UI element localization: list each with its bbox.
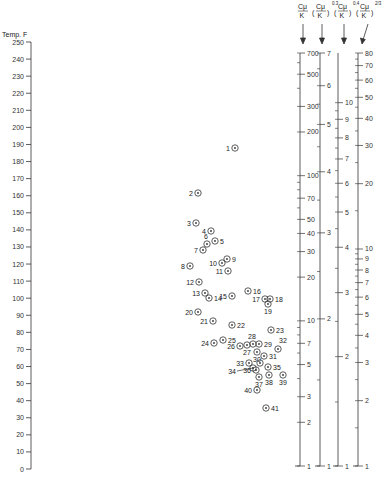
point-label: 2 — [189, 190, 193, 197]
svg-text:K: K — [340, 12, 345, 19]
temp-tick-label: 220 — [12, 90, 24, 97]
temp-tick-label: 130 — [12, 243, 24, 250]
header-cp-k-exp-2-3: ( Cμ K ) 2/3 — [356, 1, 382, 19]
point-label: 22 — [237, 322, 245, 329]
scale-4: 8070605040302010987654321 — [353, 50, 373, 470]
reference-point: 41 — [263, 405, 279, 412]
svg-text:(: ( — [312, 9, 315, 17]
reference-point: 36 — [243, 367, 259, 374]
point-label: 27 — [243, 349, 251, 356]
point-label: 8 — [181, 263, 185, 270]
reference-point: 32 — [275, 337, 287, 352]
scale-label: 30 — [365, 142, 373, 149]
reference-point: 9 — [224, 256, 236, 263]
scale-label: 10 — [365, 245, 373, 252]
svg-text:): ) — [371, 9, 373, 17]
reference-point: 6 — [204, 233, 210, 247]
reference-point: 19 — [264, 301, 272, 315]
point-label: 21 — [200, 318, 208, 325]
reference-point: 1 — [226, 145, 238, 152]
header-1-numerator: Cμ — [298, 3, 307, 11]
point-label: 12 — [186, 279, 194, 286]
temp-tick-label: 250 — [12, 39, 24, 46]
scale-label: 7 — [345, 155, 349, 162]
scale-label: 3 — [307, 393, 311, 400]
point-label: 15 — [219, 293, 227, 300]
scale-label: 9 — [345, 116, 349, 123]
point-label: 39 — [279, 379, 287, 386]
reference-point: 35 — [265, 364, 281, 371]
scale-label: 3 — [345, 289, 349, 296]
reference-point: 5 — [212, 238, 224, 245]
scale-label: 60 — [365, 77, 373, 84]
svg-text:): ) — [349, 9, 351, 17]
scale-label: 70 — [307, 195, 315, 202]
scale-label: 500 — [307, 71, 319, 78]
reference-point: 20 — [185, 309, 201, 316]
point-label: 26 — [227, 343, 235, 350]
reference-point: 3 — [187, 220, 199, 227]
temp-tick-label: 100 — [12, 295, 24, 302]
temp-tick-label: 210 — [12, 107, 24, 114]
point-label: 34 — [228, 368, 236, 375]
scale-label: 70 — [365, 62, 373, 69]
scale-label: 50 — [365, 94, 373, 101]
scale-label: 2 — [365, 397, 369, 404]
reference-point: 22 — [229, 322, 245, 329]
nomograph: Temp. F 01020304050607080901001101201301… — [0, 0, 392, 485]
scale-label: 2 — [307, 419, 311, 426]
point-label: 17 — [252, 296, 260, 303]
scale-label: 200 — [307, 128, 319, 135]
reference-point: 24 — [201, 340, 217, 347]
scale-label: 3 — [365, 359, 369, 366]
svg-text:(: ( — [356, 9, 359, 17]
scale-label: 5 — [307, 361, 311, 368]
scale-label: 100 — [307, 172, 319, 179]
temp-tick-label: 190 — [12, 141, 24, 148]
scale-label: 3 — [327, 229, 331, 236]
reference-point: 12 — [186, 279, 202, 286]
scale-1: 70050030020010070504030201075321 — [295, 50, 319, 470]
point-label: 35 — [273, 364, 281, 371]
temp-tick-label: 40 — [16, 397, 24, 404]
reference-point: 29 — [256, 341, 272, 348]
scale-label: 6 — [327, 82, 331, 89]
svg-text:K: K — [362, 12, 367, 19]
point-label: 38 — [265, 379, 273, 386]
reference-point: 15 — [219, 293, 235, 300]
svg-text:Cμ: Cμ — [316, 3, 325, 11]
scale-label: 40 — [307, 230, 315, 237]
point-label: 24 — [201, 340, 209, 347]
reference-point: 37 — [255, 374, 263, 388]
scale-headers: Cμ K ( Cμ K ) 0.3 ( Cμ K ) 0.4 ( Cμ K ) … — [298, 1, 382, 44]
scale-label: 1 — [365, 463, 369, 470]
temperature-axis: 0102030405060708090100110120130140150160… — [12, 39, 31, 473]
reference-point: 23 — [268, 327, 284, 334]
point-label: 36 — [243, 367, 251, 374]
point-label: 16 — [253, 288, 261, 295]
point-label: 3 — [187, 220, 191, 227]
reference-point: 11 — [216, 268, 231, 275]
point-label: 20 — [185, 309, 193, 316]
reference-point: 8 — [181, 263, 193, 270]
point-label: 40 — [244, 387, 252, 394]
scale-label: 50 — [307, 216, 315, 223]
svg-text:): ) — [327, 9, 329, 17]
scale-label: 4 — [345, 244, 349, 251]
temp-tick-label: 170 — [12, 175, 24, 182]
reference-point: 10 — [209, 260, 225, 267]
point-label: 10 — [209, 260, 217, 267]
temp-tick-label: 140 — [12, 226, 24, 233]
scale-label: 8 — [345, 134, 349, 141]
header-arrows — [301, 24, 369, 44]
temp-tick-label: 10 — [16, 448, 24, 455]
temp-tick-label: 120 — [12, 261, 24, 268]
point-label: 6 — [204, 233, 208, 240]
point-label: 31 — [269, 353, 277, 360]
temp-tick-label: 60 — [16, 363, 24, 370]
reference-point: 38 — [265, 372, 273, 386]
scale-label: 20 — [365, 180, 373, 187]
scale-label: 6 — [345, 180, 349, 187]
scale-label: 1 — [307, 463, 311, 470]
point-label: 5 — [220, 238, 224, 245]
